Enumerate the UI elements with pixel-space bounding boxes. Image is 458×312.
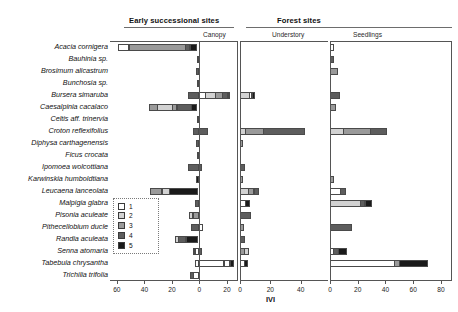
legend-item[interactable]: 2 xyxy=(118,212,154,221)
group-header-early-successional-sites: Early successional sites xyxy=(129,16,219,25)
legend-swatch xyxy=(118,222,125,229)
bar-segment xyxy=(199,260,224,267)
species-label: Acacia cornigera xyxy=(54,43,108,50)
bar-stack xyxy=(118,44,199,51)
bar-segment xyxy=(340,188,346,195)
sub-header-seedlings: Seedlings xyxy=(353,31,382,38)
x-tick xyxy=(270,281,271,284)
species-label: Diphysa carthagenensis xyxy=(31,139,108,146)
x-tick-label: 0 xyxy=(238,286,242,293)
species-label: Ipomoea wolcottiana xyxy=(42,163,108,170)
x-tick xyxy=(227,281,228,284)
bar-segment xyxy=(244,248,249,255)
species-label: Randia aculeata xyxy=(56,235,108,242)
group-header-forest-sites: Forest sites xyxy=(277,16,321,25)
bar-stack xyxy=(150,188,200,195)
species-label: Tabebuia chrysantha xyxy=(42,259,108,266)
bar-segment xyxy=(230,260,234,267)
x-tick-label: 20 xyxy=(168,286,175,293)
species-label: Ficus crocata xyxy=(65,151,108,158)
x-tick xyxy=(385,281,386,284)
species-label: Celtis aff. trinervia xyxy=(50,115,108,122)
bar-segment xyxy=(191,224,199,231)
legend-item[interactable]: 4 xyxy=(118,231,154,240)
bar-segment xyxy=(330,92,340,99)
species-label: Bunchosia sp. xyxy=(63,79,108,86)
bar-segment xyxy=(199,128,208,135)
legend-label: 4 xyxy=(129,232,133,239)
bar-stack xyxy=(240,200,251,207)
bar-stack xyxy=(240,248,250,255)
bar-segment xyxy=(193,272,199,279)
bar-stack xyxy=(191,224,199,231)
legend-label: 5 xyxy=(129,242,133,249)
x-tick xyxy=(441,281,442,284)
bar-segment xyxy=(188,164,199,171)
bar-stack xyxy=(330,200,373,207)
species-label: Bauhinia sp. xyxy=(68,55,108,62)
bar-segment xyxy=(157,104,172,111)
bar-stack xyxy=(240,212,251,219)
bar-segment xyxy=(343,128,371,135)
legend-item[interactable]: 3 xyxy=(118,221,154,230)
bar-segment xyxy=(177,104,192,111)
bar-segment xyxy=(191,104,197,111)
x-tick-label: 40 xyxy=(382,286,389,293)
bar-segment xyxy=(338,248,346,255)
bar-segment xyxy=(399,260,428,267)
zero-line xyxy=(330,41,331,281)
bar-stack xyxy=(189,212,199,219)
sub-header-canopy: Canopy xyxy=(203,31,226,38)
species-label: Karwinskia humboldtiana xyxy=(28,175,108,182)
x-axis-label: IVI xyxy=(266,295,275,304)
bar-stack xyxy=(330,248,348,255)
figure-root: Early successional sites Forest sites Ca… xyxy=(0,0,458,312)
bar-segment xyxy=(150,188,162,195)
legend-label: 2 xyxy=(129,212,133,219)
bar-segment xyxy=(188,92,199,99)
legend-item[interactable]: 5 xyxy=(118,241,154,250)
bar-segment xyxy=(244,260,248,267)
x-tick xyxy=(330,281,331,284)
legend-swatch xyxy=(118,232,125,239)
bar-stack xyxy=(188,164,199,171)
species-label: Croton reflexifolius xyxy=(48,127,108,134)
bar-stack xyxy=(330,128,388,135)
bar-stack xyxy=(188,92,199,99)
x-tick xyxy=(413,281,414,284)
legend-swatch xyxy=(118,212,125,219)
bar-segment xyxy=(228,92,231,99)
bar-segment xyxy=(240,212,251,219)
sub-header-understory: Understory xyxy=(272,31,304,38)
legend-item[interactable]: 1 xyxy=(118,202,154,211)
bar-segment xyxy=(193,212,199,219)
bar-stack xyxy=(330,68,338,75)
x-tick-label: 40 xyxy=(297,286,304,293)
species-label: Pisonia aculeate xyxy=(55,211,108,218)
x-tick-label: 60 xyxy=(113,286,120,293)
bar-stack xyxy=(330,188,347,195)
species-label: Leucaena lanceolata xyxy=(42,187,108,194)
bar-stack xyxy=(199,92,233,99)
x-tick xyxy=(172,281,173,284)
series-legend: 12345 xyxy=(113,198,159,254)
header-rule-early xyxy=(124,27,234,28)
bar-stack xyxy=(330,92,340,99)
bar-segment xyxy=(365,200,372,207)
zero-line xyxy=(240,41,241,281)
panel-seedlings xyxy=(330,41,452,281)
species-label: Caesalpinia cacalaco xyxy=(40,103,108,110)
bar-segment xyxy=(330,224,352,231)
species-label: Senna atomaria xyxy=(57,247,108,254)
bar-segment xyxy=(330,260,395,267)
species-label: Trichilia trifolia xyxy=(63,271,108,278)
bar-segment xyxy=(129,44,186,51)
x-tick-label: 80 xyxy=(437,286,444,293)
x-tick-label: 20 xyxy=(354,286,361,293)
x-tick xyxy=(199,281,200,284)
x-tick-label: 0 xyxy=(198,286,202,293)
species-label: Bursera simaruba xyxy=(51,91,108,98)
bar-stack xyxy=(240,128,307,135)
bar-stack xyxy=(199,128,208,135)
bar-stack xyxy=(190,272,200,279)
